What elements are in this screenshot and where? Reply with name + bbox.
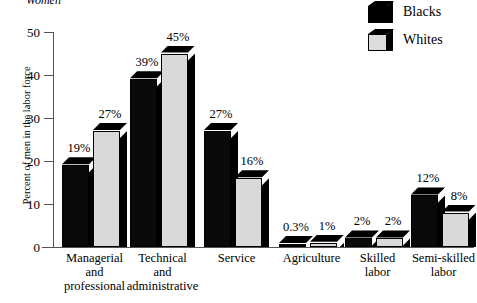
- bar-side-face: [120, 131, 127, 247]
- y-axis-tick-label: 50: [14, 26, 40, 39]
- legend-label-blacks: Blacks: [403, 5, 441, 19]
- y-axis-tick: [44, 247, 53, 248]
- bar-face: [235, 178, 262, 247]
- bar-top-face: [376, 230, 410, 238]
- bar-top-face: [204, 123, 238, 131]
- bar-top-face: [279, 236, 313, 244]
- y-axis-tick-label: 20: [14, 155, 40, 168]
- bar-face: [93, 131, 120, 247]
- plot-area: 19%27%39%45%27%16%0.3%1%2%2%12%8%: [53, 32, 472, 247]
- bar-top-face: [62, 157, 96, 165]
- bar-top-face: [442, 205, 476, 213]
- bar-face: [411, 195, 438, 247]
- bar-whites-4: [376, 231, 403, 247]
- y-axis-tick: [44, 32, 53, 33]
- bar-side-face: [337, 243, 344, 247]
- bar-blacks-2: [204, 124, 231, 247]
- bar-top-face: [161, 46, 195, 54]
- bar-face: [442, 213, 469, 247]
- bar-face: [376, 238, 403, 247]
- bar-top-face: [93, 123, 127, 131]
- bar-blacks-4: [345, 231, 372, 247]
- bar-face: [62, 165, 89, 247]
- bar-whites-2: [235, 171, 262, 247]
- bar-face: [310, 243, 337, 247]
- bar-face: [204, 131, 231, 247]
- bar-top-face: [345, 230, 379, 238]
- category-label-line: labor: [384, 265, 477, 279]
- bar-whites-0: [93, 124, 120, 247]
- y-axis-tick-label: 10: [14, 198, 40, 211]
- y-axis-tick: [44, 161, 53, 162]
- y-axis-tick-label: 30: [14, 112, 40, 125]
- category-label-line: Semi-skilled: [384, 251, 477, 265]
- bar-face: [345, 238, 372, 247]
- bar-side-face: [262, 178, 269, 247]
- y-axis-tick-label: 40: [14, 69, 40, 82]
- bar-face: [130, 79, 157, 247]
- y-axis-tick: [44, 118, 53, 119]
- bar-side-face: [188, 54, 195, 248]
- bar-value-label: 27%: [89, 108, 131, 121]
- bar-value-label: 16%: [231, 155, 273, 168]
- category-label-line: administrative: [103, 279, 223, 293]
- y-axis-tick: [44, 75, 53, 76]
- category-label-5: Semi-skilledlabor: [384, 251, 477, 279]
- bar-blacks-3: [279, 237, 306, 247]
- bar-value-label: 27%: [200, 108, 242, 121]
- y-axis-tick: [44, 204, 53, 205]
- bar-face: [161, 54, 188, 248]
- bar-blacks-1: [130, 72, 157, 247]
- bar-whites-1: [161, 47, 188, 248]
- bar-whites-5: [442, 206, 469, 247]
- bar-value-label: 8%: [438, 190, 477, 203]
- bar-blacks-5: [411, 188, 438, 247]
- chart-title: Women: [26, 0, 61, 6]
- bar-value-label: 12%: [407, 172, 449, 185]
- bar-whites-3: [310, 236, 337, 247]
- category-label-line: and: [103, 265, 223, 279]
- black-cube-icon: [368, 1, 394, 23]
- bar-side-face: [403, 238, 410, 247]
- bar-side-face: [469, 213, 476, 247]
- bar-top-face: [310, 235, 344, 243]
- x-axis-line: [42, 247, 474, 248]
- bar-top-face: [235, 170, 269, 178]
- legend-item-blacks: Blacks: [368, 0, 477, 26]
- bar-value-label: 45%: [157, 31, 199, 44]
- bar-blacks-0: [62, 158, 89, 247]
- bar-top-face: [130, 71, 164, 79]
- bar-value-label: 2%: [372, 215, 414, 228]
- bar-face: [279, 244, 306, 247]
